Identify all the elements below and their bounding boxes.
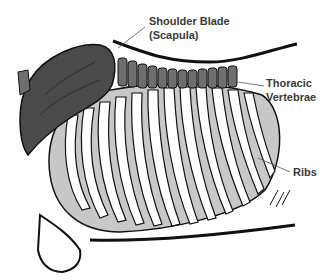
- label-shoulder-blade: Shoulder Blade (Scapula): [149, 14, 230, 42]
- label-ribs: Ribs: [293, 165, 317, 179]
- belly-hatching: [270, 190, 290, 207]
- label-thoracic-vertebrae: Thoracic Vertebrae: [266, 76, 316, 104]
- label-ribs-line1: Ribs: [293, 165, 317, 179]
- back-outline: [113, 41, 297, 62]
- humerus: [38, 215, 80, 272]
- label-thoracic-line2: Vertebrae: [266, 90, 316, 104]
- label-shoulder-blade-line1: Shoulder Blade: [149, 14, 230, 28]
- label-thoracic-line1: Thoracic: [266, 76, 316, 90]
- thoracic-leader: [238, 82, 264, 86]
- ribcage-diagram: [0, 0, 332, 280]
- neck-vertebra: [18, 70, 30, 95]
- label-shoulder-blade-line2: (Scapula): [149, 28, 230, 42]
- scapula-leader: [118, 27, 145, 48]
